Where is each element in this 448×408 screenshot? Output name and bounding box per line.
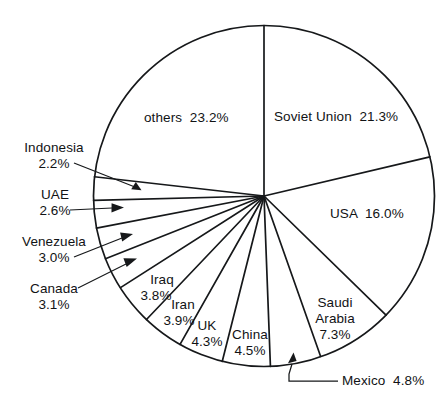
divider-indonesia-others <box>94 177 264 196</box>
leader-arrow-canada <box>123 258 137 267</box>
slice-label-others: others 23.2% <box>144 110 229 125</box>
slice-label-iraq-line1: Iraq <box>140 272 184 287</box>
leader-line-mexico <box>289 364 338 381</box>
slice-label-china-line2: 4.5% <box>224 343 276 358</box>
slice-label-saudi-arabia-line2: Arabia <box>305 311 365 326</box>
divider-canada-venezuela <box>105 196 264 259</box>
slice-label-iraq-line2: 3.8% <box>130 288 182 303</box>
callout-label-canada-line1: Canada <box>14 281 94 296</box>
leader-arrow-uae <box>112 203 125 212</box>
leader-arrow-venezuela <box>120 233 133 242</box>
divider-uae-indonesia <box>94 196 264 200</box>
callout-label-venezuela-line1: Venezuela <box>8 234 100 249</box>
slice-label-iran-line2: 3.9% <box>155 313 203 328</box>
slice-label-saudi-arabia-line3: 7.3% <box>305 327 365 342</box>
pie-chart: Soviet Union 21.3% USA 16.0% Saudi Arabi… <box>0 0 448 408</box>
callout-label-indonesia-line1: Indonesia <box>12 140 96 155</box>
slice-label-uk-line2: 4.3% <box>184 334 230 349</box>
slice-label-usa: USA 16.0% <box>330 206 404 221</box>
callout-label-canada-line2: 3.1% <box>14 297 94 312</box>
callout-label-uae-line2: 2.6% <box>22 203 88 218</box>
callout-label-mexico: Mexico 4.8% <box>342 373 424 388</box>
slice-label-china-line1: China <box>224 327 276 342</box>
callout-label-indonesia-line2: 2.2% <box>12 156 96 171</box>
leader-arrow-mexico <box>288 353 297 364</box>
slice-label-soviet-union: Soviet Union 21.3% <box>274 109 398 124</box>
slice-label-saudi-arabia-line1: Saudi <box>305 295 365 310</box>
divider-soviet-usa <box>264 157 430 196</box>
callout-label-venezuela-line2: 3.0% <box>8 250 100 265</box>
callout-label-uae-line1: UAE <box>22 187 88 202</box>
